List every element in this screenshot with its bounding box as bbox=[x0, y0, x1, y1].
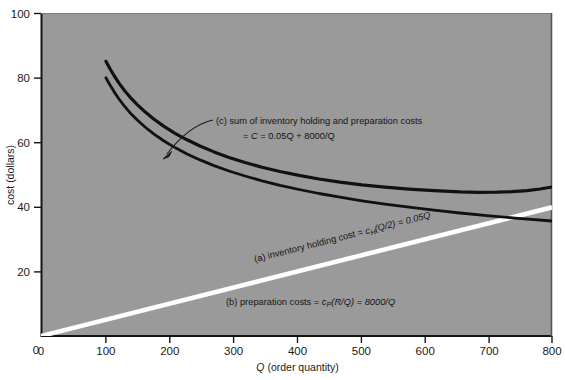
x-tick-label-100: 100 bbox=[96, 345, 115, 357]
x-tick-label-800: 800 bbox=[542, 345, 561, 357]
x-axis-title-rest: (order quantity) bbox=[265, 361, 339, 373]
x-tick-label-0: 0 bbox=[38, 345, 44, 357]
x-tick-label-600: 600 bbox=[416, 345, 435, 357]
x-tick-label-300: 300 bbox=[224, 345, 243, 357]
figure-container: 100 80 60 40 20 0 cost (dollars) 0 100 2… bbox=[0, 0, 565, 380]
y-axis-title: cost (dollars) bbox=[4, 145, 16, 205]
y-tick-label-100: 100 bbox=[11, 8, 30, 20]
annotation-b-rest: (R/Q) = 8000/Q bbox=[331, 297, 395, 307]
y-tick-label-60: 60 bbox=[17, 137, 30, 149]
y-tick-label-40: 40 bbox=[17, 201, 30, 213]
x-axis-title-symbol: Q bbox=[256, 361, 264, 373]
annotation-c-line2: = C = 0.05Q + 8000/Q bbox=[243, 131, 335, 141]
y-tick-label-20: 20 bbox=[17, 266, 30, 278]
annotation-c-line2-prefix: = bbox=[243, 131, 251, 141]
annotation-c-line2-rest: = 0.05Q + 8000/Q bbox=[258, 131, 335, 141]
x-axis-title: Q (order quantity) bbox=[256, 361, 338, 373]
x-tick-label-700: 700 bbox=[480, 345, 499, 357]
y-tick-label-80: 80 bbox=[17, 72, 30, 84]
cost-vs-order-quantity-chart: 100 80 60 40 20 0 cost (dollars) 0 100 2… bbox=[0, 0, 565, 380]
annotation-b-prefix: (b) preparation costs = bbox=[226, 297, 322, 307]
x-tick-label-200: 200 bbox=[160, 345, 179, 357]
annotation-c-line1: (c) sum of inventory holding and prepara… bbox=[216, 116, 423, 126]
x-tick-label-500: 500 bbox=[352, 345, 371, 357]
x-tick-label-400: 400 bbox=[288, 345, 307, 357]
